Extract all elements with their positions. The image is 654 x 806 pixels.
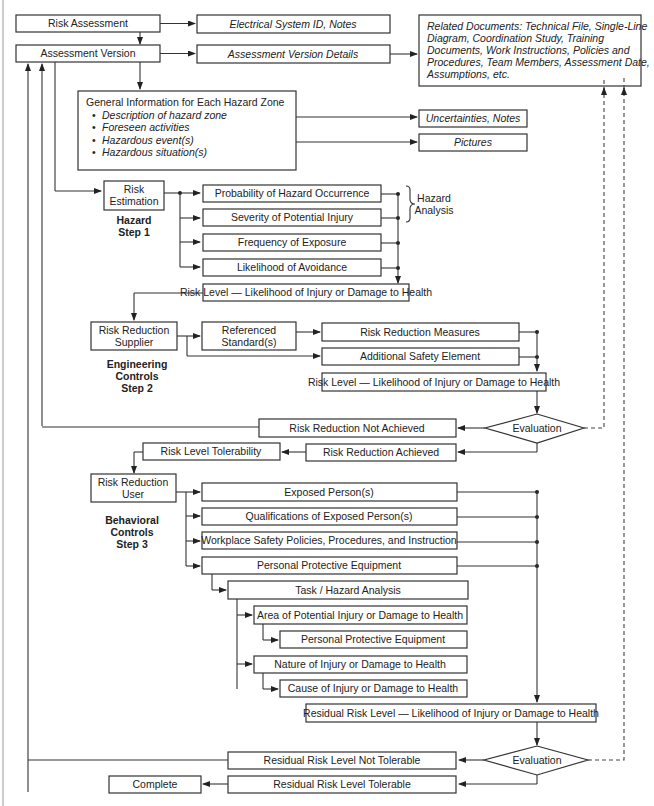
bullet-icon: • [92, 109, 96, 121]
svg-text:Step 2: Step 2 [121, 382, 153, 394]
node-label: Risk Reduction [98, 476, 169, 488]
bullet-icon: • [92, 121, 96, 133]
svg-text:Analysis: Analysis [414, 204, 453, 216]
node-label: Assessment Version [40, 47, 135, 59]
node-area-of-potential-injury[interactable]: Area of Potential Injury or Damage to He… [254, 606, 467, 624]
node-assessment-version[interactable]: Assessment Version [16, 45, 160, 62]
node-label: Area of Potential Injury or Damage to He… [257, 609, 463, 621]
node-referenced-standards[interactable]: Referenced Standard(s) [202, 322, 296, 350]
node-risk-reduction-achieved[interactable]: Risk Reduction Achieved [306, 444, 456, 461]
node-label: Estimation [109, 195, 158, 207]
node-label: Complete [133, 778, 178, 790]
node-risk-estimation[interactable]: Risk Estimation [104, 181, 164, 210]
node-label: Evaluation [512, 422, 561, 434]
node-label: Frequency of Exposure [238, 236, 347, 248]
node-label: Related Documents: Technical File, Singl… [427, 20, 647, 32]
dashed-link-evaluation-1 [584, 77, 604, 428]
decision-evaluation-1[interactable]: Evaluation [485, 414, 584, 443]
svg-text:Controls: Controls [115, 370, 158, 382]
bullet-icon: • [92, 134, 96, 146]
node-label: Standard(s) [222, 336, 277, 348]
svg-text:Behavioral: Behavioral [105, 514, 159, 526]
node-residual-risk-level[interactable]: Residual Risk Level — Likelihood of Inju… [303, 704, 599, 722]
node-risk-reduction-not-achieved[interactable]: Risk Reduction Not Achieved [259, 419, 456, 437]
node-risk-assessment[interactable]: Risk Assessment [16, 15, 160, 32]
node-label: Risk Reduction Achieved [323, 446, 439, 458]
svg-text:Step 3: Step 3 [116, 538, 148, 550]
node-label: Workplace Safety Policies, Procedures, a… [201, 534, 457, 546]
node-exposed-persons[interactable]: Exposed Person(s) [202, 483, 457, 501]
node-label: Exposed Person(s) [284, 486, 373, 498]
node-label: Risk Reduction Measures [360, 326, 480, 338]
node-label: Assumptions, etc. [426, 68, 510, 80]
svg-text:Hazard: Hazard [417, 192, 451, 204]
node-label: Uncertainties, Notes [426, 112, 521, 124]
node-label: Task / Hazard Analysis [295, 584, 401, 596]
node-qualifications[interactable]: Qualifications of Exposed Person(s) [202, 508, 457, 525]
step3-label: Behavioral Controls Step 3 [105, 514, 159, 550]
node-severity-of-potential-injury[interactable]: Severity of Potential Injury [203, 209, 381, 226]
hazard-analysis-label: Hazard Analysis [414, 192, 453, 216]
node-label: Risk Level — Likelihood of Injury or Dam… [308, 376, 560, 388]
node-risk-level-tolerability[interactable]: Risk Level Tolerability [143, 443, 280, 460]
node-label: Additional Safety Element [360, 350, 480, 362]
svg-text:Hazard: Hazard [116, 214, 151, 226]
node-likelihood-of-avoidance[interactable]: Likelihood of Avoidance [203, 259, 381, 276]
node-task-hazard-analysis[interactable]: Task / Hazard Analysis [228, 581, 468, 599]
node-label: Evaluation [512, 754, 561, 766]
node-label: Risk Assessment [48, 17, 128, 29]
bullet-text: Hazardous situation(s) [102, 146, 207, 158]
node-label: Risk Level — Likelihood of Injury or Dam… [180, 286, 432, 298]
node-label: Referenced [222, 324, 276, 336]
node-electrical-system-id[interactable]: Electrical System ID, Notes [197, 15, 390, 33]
node-complete[interactable]: Complete [109, 776, 201, 793]
node-label: Supplier [115, 336, 154, 348]
node-label: Personal Protective Equipment [301, 633, 445, 645]
node-label: Electrical System ID, Notes [229, 18, 357, 30]
node-label: Assessment Version Details [227, 48, 359, 60]
node-nature-of-injury[interactable]: Nature of Injury or Damage to Health [254, 656, 467, 673]
node-assessment-version-details[interactable]: Assessment Version Details [197, 45, 390, 63]
decision-evaluation-2[interactable]: Evaluation [484, 746, 588, 775]
node-label: Risk Reduction Not Achieved [289, 422, 425, 434]
node-label: General Information for Each Hazard Zone [86, 96, 285, 108]
bullet-text: Hazardous event(s) [102, 134, 194, 146]
node-label: Qualifications of Exposed Person(s) [246, 510, 413, 522]
node-frequency-of-exposure[interactable]: Frequency of Exposure [203, 234, 381, 251]
risk-assessment-flowchart: Risk Assessment Electrical System ID, No… [0, 0, 654, 806]
bullet-text: Foreseen activities [102, 121, 190, 133]
step1-label: Hazard Step 1 [116, 214, 151, 238]
node-label: Residual Risk Level Tolerable [273, 778, 411, 790]
node-additional-safety-element[interactable]: Additional Safety Element [322, 348, 519, 365]
node-uncertainties-notes[interactable]: Uncertainties, Notes [419, 110, 527, 127]
svg-text:Step 1: Step 1 [118, 226, 150, 238]
node-related-documents[interactable]: Related Documents: Technical File, Singl… [419, 15, 650, 86]
node-label: Risk Reduction [99, 324, 170, 336]
node-residual-not-tolerable[interactable]: Residual Risk Level Not Tolerable [228, 752, 456, 769]
node-cause-of-injury[interactable]: Cause of Injury or Damage to Health [280, 680, 467, 697]
node-pictures[interactable]: Pictures [419, 134, 527, 151]
node-label: Diagram, Coordination Study, Training [427, 32, 604, 44]
node-label: Personal Protective Equipment [257, 559, 401, 571]
node-label: Nature of Injury or Damage to Health [274, 658, 446, 670]
svg-text:Engineering: Engineering [107, 358, 168, 370]
node-risk-reduction-user[interactable]: Risk Reduction User [91, 474, 176, 502]
node-residual-tolerable[interactable]: Residual Risk Level Tolerable [228, 776, 456, 793]
node-personal-protective-equipment-2[interactable]: Personal Protective Equipment [280, 631, 467, 648]
node-risk-level-step2[interactable]: Risk Level — Likelihood of Injury or Dam… [308, 373, 560, 391]
node-probability-of-hazard-occurrence[interactable]: Probability of Hazard Occurrence [203, 185, 381, 202]
node-label: Residual Risk Level — Likelihood of Inju… [303, 707, 599, 719]
node-risk-reduction-supplier[interactable]: Risk Reduction Supplier [91, 322, 177, 350]
node-personal-protective-equipment[interactable]: Personal Protective Equipment [202, 557, 457, 574]
node-label: Risk Level Tolerability [161, 445, 263, 457]
node-risk-reduction-measures[interactable]: Risk Reduction Measures [322, 323, 519, 341]
node-label: Risk [124, 183, 145, 195]
dashed-link-evaluation-2 [588, 77, 624, 760]
node-risk-level-step1[interactable]: Risk Level — Likelihood of Injury or Dam… [180, 284, 432, 301]
node-label: Documents, Work Instructions, Policies a… [427, 44, 631, 56]
node-label: Residual Risk Level Not Tolerable [264, 754, 421, 766]
node-workplace-safety-policies[interactable]: Workplace Safety Policies, Procedures, a… [201, 532, 457, 549]
node-label: Probability of Hazard Occurrence [215, 187, 370, 199]
node-label: Likelihood of Avoidance [237, 261, 347, 273]
node-general-information[interactable]: General Information for Each Hazard Zone… [78, 91, 296, 170]
